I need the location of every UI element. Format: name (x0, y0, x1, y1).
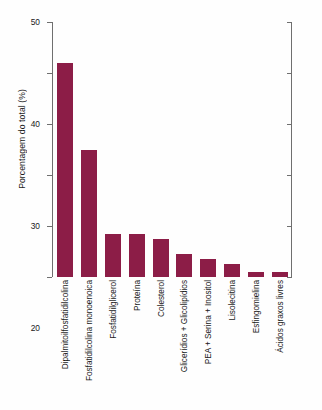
bar-slot (77, 22, 101, 277)
bar-slot (268, 22, 292, 277)
bar-series (53, 22, 292, 277)
x-label-slot: Ácidos graxos livres (268, 280, 292, 406)
bar (248, 272, 264, 277)
x-label-slot: Glicerídios + Glicolipídios (173, 280, 197, 406)
x-axis-label: Fosfatidilcolina monoenoica (84, 280, 93, 381)
bar (153, 239, 169, 277)
bar (176, 254, 192, 277)
x-label-slot: Colesterol (149, 280, 173, 406)
bar-slot (53, 22, 77, 277)
bar-slot (173, 22, 197, 277)
x-axis-label: Esfingomielina (252, 280, 261, 333)
x-axis-label: Dipalmitoilfosfatidilcolina (60, 280, 69, 369)
y-tick-right (287, 277, 292, 278)
x-axis-label: PEA + Serina + Inositol (204, 280, 213, 364)
plot-area: 01020304050 (52, 22, 292, 277)
x-label-slot: PEA + Serina + Inositol (196, 280, 220, 406)
bar (57, 63, 73, 277)
bar (129, 234, 145, 277)
bar (272, 272, 288, 277)
y-tick-label: 40 (31, 119, 40, 129)
x-axis-label: Ácidos graxos livres (276, 280, 285, 353)
x-axis-label: Proteína (132, 280, 141, 311)
x-label-slot: Lisolecitina (220, 280, 244, 406)
bar (200, 259, 216, 277)
y-tick-left: 0 (47, 277, 52, 278)
y-tick-left: 20 (47, 175, 52, 176)
y-tick-label: 30 (31, 221, 40, 231)
y-tick-left: 30 (47, 124, 52, 125)
x-axis-label: Fosfatidilglicerol (108, 280, 117, 339)
x-label-slot: Proteína (125, 280, 149, 406)
x-label-slot: Dipalmitoilfosfatidilcolina (53, 280, 77, 406)
y-tick-label: 20 (31, 323, 40, 333)
y-tick-label: 50 (31, 17, 40, 27)
bar-slot (220, 22, 244, 277)
bar-slot (101, 22, 125, 277)
x-axis-label: Glicerídios + Glicolipídios (180, 280, 189, 372)
bar-slot (196, 22, 220, 277)
bar-chart-figure: Porcentagem do total (%) 01020304050 Dip… (0, 0, 322, 410)
y-tick-left: 50 (47, 22, 52, 23)
x-axis-category-labels: DipalmitoilfosfatidilcolinaFosfatidilcol… (53, 280, 292, 406)
y-axis-title-text: Porcentagem do total (%) (17, 89, 27, 189)
bar-slot (149, 22, 173, 277)
y-tick-left: 40 (47, 73, 52, 74)
bar-slot (244, 22, 268, 277)
y-axis-title: Porcentagem do total (%) (10, 0, 34, 277)
bar-slot (125, 22, 149, 277)
y-tick-left: 10 (47, 226, 52, 227)
bar (224, 264, 240, 277)
bar (105, 234, 121, 277)
x-label-slot: Fosfatidilcolina monoenoica (77, 280, 101, 406)
x-label-slot: Esfingomielina (244, 280, 268, 406)
bar (81, 150, 97, 278)
x-label-slot: Fosfatidilglicerol (101, 280, 125, 406)
x-axis-label: Lisolecitina (228, 280, 237, 321)
x-axis-label: Colesterol (156, 280, 165, 317)
